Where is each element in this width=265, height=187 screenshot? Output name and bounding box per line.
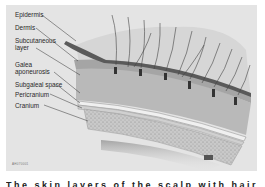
label-galea-aponeurosis: aponeurosis bbox=[15, 68, 50, 75]
label-pericranium: Pericranium bbox=[15, 91, 49, 98]
figure-caption: The skin layers of the scalp with hair f… bbox=[6, 180, 259, 187]
label-subcutaneous: Subcutaneous bbox=[15, 37, 56, 44]
label-subcutaneous-layer: layer bbox=[15, 44, 29, 51]
scale-bar-icon bbox=[204, 155, 213, 160]
label-subgaleal-space: Subgaleal space bbox=[15, 81, 62, 88]
label-cranium: Cranium bbox=[15, 102, 39, 109]
label-dermis: Dermis bbox=[15, 24, 35, 31]
label-epidermis: Epidermis bbox=[15, 11, 43, 18]
scalp-cross-section-drawing bbox=[6, 5, 257, 171]
figure-id: AH070001 bbox=[12, 162, 29, 166]
label-galea: Galea bbox=[15, 61, 32, 68]
scalp-layers-illustration: Epidermis Dermis Subcutaneous layer Gale… bbox=[6, 5, 257, 171]
